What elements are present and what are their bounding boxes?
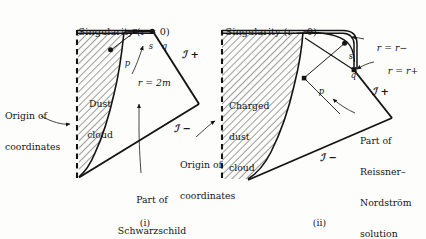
panel-ii-origin-line2: coordinates	[180, 191, 235, 201]
panel-ii-title-text: Singularity (r = 0)	[226, 26, 317, 37]
panel-ii-scri-plus-text: ℐ +	[372, 86, 389, 97]
panel-i-exterior-line1: Part of	[115, 195, 189, 205]
panel-ii-caption-text: (ii)	[313, 217, 326, 228]
leader-origin-ii	[196, 121, 215, 137]
panel-i-horizon-label: r = 2m	[126, 68, 171, 99]
panel-ii-exterior-line3: Nordström	[360, 198, 412, 208]
panel-ii-origin-line1: Origin of	[180, 160, 235, 170]
panel-i-region-line2: cloud	[82, 130, 118, 140]
panel-i-point-q-text: q	[162, 41, 167, 51]
leader-inner-horizon-ii	[352, 37, 364, 39]
panel-ii-point-q-label: q	[340, 62, 356, 90]
panel-i-exterior-line2: Schwarzschild	[115, 226, 189, 236]
panel-ii-exterior-line4: solution	[360, 229, 412, 239]
panel-i-region-label: Dust cloud	[82, 78, 118, 161]
panel-i-origin-line1: Origin of	[5, 111, 60, 121]
figure-canvas: Singularity (r = 0) Dust cloud r = 2m Or…	[0, 0, 426, 239]
panel-ii-point-p-label: p	[308, 78, 324, 106]
panel-i-exterior-label: Part of Schwarzschild solution	[115, 174, 189, 239]
panel-ii-scri-plus-label: ℐ +	[358, 75, 389, 109]
leader-schwarzschild-i	[139, 104, 141, 173]
panel-ii-region-line1: Charged	[229, 101, 270, 111]
panel-ii-exterior-line2: Reissner–	[360, 167, 412, 177]
panel-ii-point-s-text: s	[349, 51, 353, 61]
panel-i-scri-plus-label: ℐ +	[168, 38, 199, 72]
panel-i-scri-minus-text: ℐ −	[174, 123, 191, 134]
panel-i-scri-plus-text: ℐ +	[182, 49, 199, 60]
panel-ii-title: Singularity (r = 0)	[213, 16, 317, 48]
panel-i-origin-line2: coordinates	[5, 142, 60, 152]
panel-i-point-p-text: p	[125, 58, 130, 68]
panel-ii-scri-minus-text: ℐ −	[320, 152, 337, 163]
panel-i-horizon-text: r = 2m	[138, 77, 171, 88]
panel-ii-exterior-line1: Part of	[360, 136, 412, 146]
point-p-ii	[302, 76, 307, 81]
panel-ii-scri-minus-label: ℐ −	[306, 141, 337, 175]
panel-ii-inner-horizon-text: r = r−	[377, 42, 407, 53]
panel-i-caption: (i)	[128, 208, 150, 239]
panel-ii-outer-horizon-text: r = r+	[388, 65, 418, 76]
panel-ii-exterior-label: Part of Reissner– Nordström solution	[360, 115, 412, 239]
panel-i-origin-label: Origin of coordinates	[5, 90, 60, 173]
panel-ii-caption: (ii)	[301, 208, 326, 239]
panel-i-region-line1: Dust	[82, 99, 118, 109]
panel-ii-origin-label: Origin of coordinates	[180, 139, 235, 222]
panel-i-point-p-label: p	[114, 50, 130, 78]
panel-i-caption-text: (i)	[140, 217, 150, 228]
panel-i-point-q-label: q	[151, 33, 167, 61]
panel-ii-point-p-text: p	[319, 86, 324, 96]
panel-ii-point-q-text: q	[351, 70, 356, 80]
